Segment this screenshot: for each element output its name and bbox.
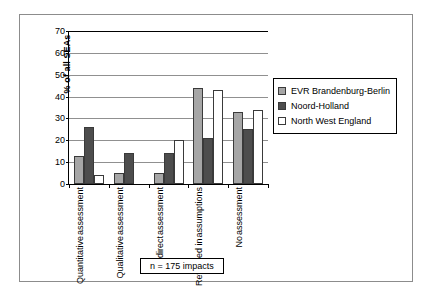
- x-axis-tick-mark: [69, 184, 70, 188]
- y-axis-tick-mark: [66, 53, 69, 54]
- bar: [233, 112, 243, 184]
- bar-group: [74, 31, 104, 184]
- x-axis-category-label: Noassessment: [234, 187, 256, 267]
- y-axis-tick-label: 20: [55, 135, 65, 145]
- chart-legend: EVR Brandenburg-BerlinNoord-HollandNorth…: [273, 78, 397, 134]
- x-axis-category-line: Quantitative: [75, 236, 86, 284]
- bar-group: [193, 31, 223, 184]
- bar: [243, 129, 253, 184]
- x-axis-category-line: No: [234, 236, 245, 248]
- legend-item[interactable]: North West England: [278, 114, 390, 128]
- bar: [164, 153, 174, 184]
- x-axis-category-label: Quantitativeassessment: [75, 187, 97, 267]
- x-axis-category-label: Indirectassessment: [155, 187, 177, 267]
- bar-group: [154, 31, 184, 184]
- legend-swatch-icon: [278, 117, 286, 125]
- y-axis-tick-label: 10: [55, 157, 65, 167]
- plot-area: 010203040506070QuantitativeassessmentQua…: [68, 31, 268, 185]
- y-axis-tick-label: 70: [55, 26, 65, 36]
- x-axis-category-line: assumptions: [194, 187, 205, 238]
- bar: [74, 156, 84, 184]
- bar: [94, 175, 104, 184]
- bar: [174, 140, 184, 184]
- bar: [193, 88, 203, 184]
- legend-item-label: Noord-Holland: [291, 101, 349, 111]
- figure-frame: % of all SEAs 010203040506070Quantitativ…: [19, 14, 413, 282]
- legend-item-label: North West England: [291, 116, 371, 126]
- bar: [124, 153, 134, 184]
- bar: [213, 90, 223, 184]
- y-axis-tick-mark: [66, 118, 69, 119]
- bar: [253, 110, 263, 184]
- bar: [203, 138, 213, 184]
- y-axis-tick-mark: [66, 97, 69, 98]
- bar-group: [114, 31, 144, 184]
- y-axis-tick-label: 30: [55, 113, 65, 123]
- bar-group: [233, 31, 263, 184]
- bar: [154, 173, 164, 184]
- sample-size-annotation: n = 175 impacts: [140, 258, 224, 274]
- legend-item[interactable]: Noord-Holland: [278, 99, 390, 113]
- bar: [114, 173, 124, 184]
- y-axis-tick-mark: [66, 31, 69, 32]
- y-axis-tick-label: 50: [55, 70, 65, 80]
- y-axis-tick-label: 40: [55, 92, 65, 102]
- y-axis-tick-mark: [66, 75, 69, 76]
- x-axis-category-line: Qualitative: [115, 236, 126, 279]
- legend-swatch-icon: [278, 87, 286, 95]
- x-axis-tick-mark: [109, 184, 110, 188]
- y-axis-tick-mark: [66, 162, 69, 163]
- x-axis-tick-mark: [149, 184, 150, 188]
- x-axis-category-line: assessment: [75, 187, 86, 235]
- x-axis-category-line: assessment: [115, 187, 126, 235]
- legend-item-label: EVR Brandenburg-Berlin: [291, 86, 390, 96]
- x-axis-tick-mark: [228, 184, 229, 188]
- x-axis-category-line: assessment: [155, 187, 166, 235]
- x-axis-category-label: Reflected inassumptions: [194, 187, 216, 267]
- chart-area: % of all SEAs 010203040506070Quantitativ…: [20, 15, 414, 283]
- bar: [84, 127, 94, 184]
- y-axis-tick-label: 0: [60, 179, 65, 189]
- x-axis-category-line: assessment: [234, 187, 245, 235]
- plot-inner: 010203040506070QuantitativeassessmentQua…: [69, 31, 268, 184]
- y-axis-tick-mark: [66, 140, 69, 141]
- legend-item[interactable]: EVR Brandenburg-Berlin: [278, 84, 390, 98]
- legend-swatch-icon: [278, 102, 286, 110]
- x-axis-tick-mark: [268, 184, 269, 188]
- y-axis-tick-label: 60: [55, 48, 65, 58]
- x-axis-tick-mark: [188, 184, 189, 188]
- x-axis-category-label: Qualitativeassessment: [115, 187, 137, 267]
